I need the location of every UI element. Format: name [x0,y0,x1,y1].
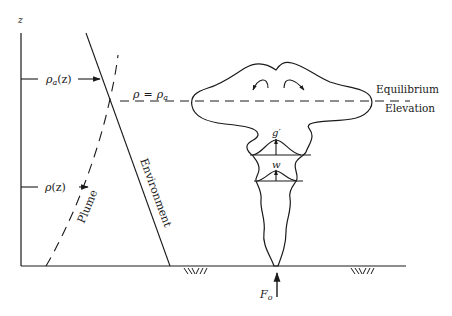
environment-density-line [86,33,170,266]
source-flux-label: Fo [259,288,273,302]
rho-z-label: ρ(z) [44,181,66,194]
ground-hatch-left [184,268,207,274]
w-label: w [272,159,281,170]
g-prime-profile-curve [253,140,301,155]
plume-label: Plume [75,188,101,225]
rho-a-z-label: ρa(z) [45,73,72,87]
g-prime-label: g′ [272,127,281,138]
environment-label: Environment [137,157,174,230]
cloud-outline [192,62,372,266]
equality-label: ρ=ρa [132,88,168,102]
axes [21,33,406,266]
circulation-arrow-right [284,80,304,90]
z-axis-label: z [17,15,23,25]
w-profile-curve [257,171,297,181]
plume-diagram: z ρa(z) ρ(z) Plume Environment ρ=ρa Equi… [0,0,452,316]
elevation-label: Elevation [385,102,435,114]
equilibrium-label: Equilibrium [376,83,439,95]
circulation-arrow-left [253,80,268,90]
ground-hatch-right [351,268,374,274]
